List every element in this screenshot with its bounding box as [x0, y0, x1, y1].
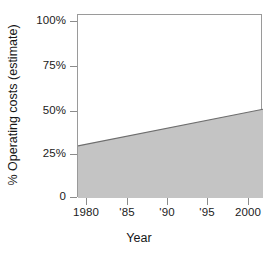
x-tick-mark-1990	[167, 198, 168, 205]
y-axis-title-wrapper: % Operating costs (estimate)	[0, 0, 26, 210]
y-tick-label-100: 100%	[36, 15, 66, 27]
y-tick-label-75: 75%	[43, 60, 66, 72]
x-tick-mark-1980	[86, 198, 87, 205]
x-tick-label-1985: '85	[119, 207, 134, 219]
x-tick-label-1980: 1980	[73, 207, 99, 219]
y-tick-label-25: 25%	[43, 148, 66, 160]
x-tick-label-1990: '90	[159, 207, 174, 219]
x-tick-label-1995: '95	[199, 207, 214, 219]
x-tick-mark-1985	[127, 198, 128, 205]
operating-costs-area-chart: 100% 75% 50% 25% 0 1980 '85 '90 '95 2000…	[0, 0, 278, 262]
y-tick-label-0: 0	[60, 191, 67, 203]
y-tick-mark-0	[70, 197, 77, 198]
y-axis-title: % Operating costs (estimate)	[7, 24, 20, 185]
y-tick-mark-25	[70, 154, 77, 155]
area-fill	[78, 109, 263, 198]
x-tick-mark-1995	[207, 198, 208, 205]
plot-area	[77, 14, 262, 197]
area-series-svg	[78, 15, 263, 198]
x-axis-title: Year	[0, 232, 278, 245]
y-tick-label-50: 50%	[43, 105, 66, 117]
x-tick-label-2000: 2000	[235, 207, 261, 219]
x-tick-mark-2000	[248, 198, 249, 205]
y-tick-mark-100	[70, 21, 77, 22]
y-tick-mark-75	[70, 66, 77, 67]
y-tick-mark-50	[70, 111, 77, 112]
